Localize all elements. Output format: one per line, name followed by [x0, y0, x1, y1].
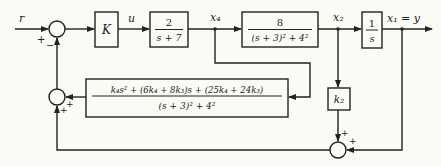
actuator-numerator: 2: [166, 17, 172, 28]
feedback-denominator: (s + 3)² + 4²: [159, 101, 216, 111]
x2-pickoff-dot: [336, 27, 340, 31]
sum-main-plus-sign: +: [37, 34, 45, 45]
sum-main-minus-sign: −: [46, 40, 54, 51]
k2-label: k₂: [334, 93, 345, 105]
plant-numerator: 8: [277, 17, 283, 28]
output-label: x₁ = y: [387, 12, 421, 25]
u-label: u: [128, 12, 135, 25]
x4-pickoff-dot: [213, 27, 217, 31]
block-diagram: r u x₄ x₂ x₁ = y K 2 s + 7 8 (s + 3)² + …: [0, 0, 441, 166]
feedback-numerator: k₄s² + (6k₄ + 8k₃)s + (25k₄ + 24k₃): [111, 85, 263, 95]
sum-feedback-plus-sign-bottom: +: [60, 105, 68, 115]
k-label: K: [101, 23, 112, 37]
plant-denominator: (s + 3)² + 4²: [252, 33, 309, 43]
sum-junction-output: [330, 142, 346, 158]
x2-label: x₂: [333, 11, 344, 24]
sum-junction-main: [49, 21, 65, 37]
sum-junction-feedback: [49, 89, 65, 105]
actuator-denominator: s + 7: [157, 32, 183, 43]
y-pickoff-dot: [400, 27, 404, 31]
input-r-label: r: [19, 12, 25, 25]
integrator-denominator: s: [369, 33, 374, 44]
sum-output-plus-sign-top: +: [341, 128, 349, 138]
sum-output-plus-sign-right: +: [349, 136, 357, 146]
integrator-numerator: 1: [369, 18, 375, 29]
x4-label: x₄: [210, 11, 221, 24]
